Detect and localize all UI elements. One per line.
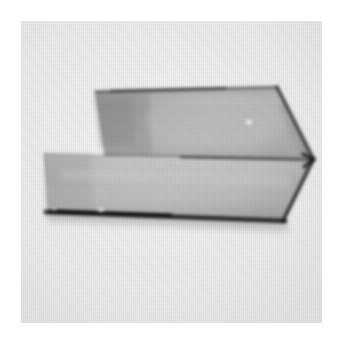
photographic-plate	[21, 21, 322, 323]
image-subject: metal cutting tool bit	[0, 0, 1, 1]
image-metadata: metal cutting tool bit Black and white h…	[0, 0, 1, 1]
tool-bit	[21, 21, 322, 323]
lower-front-face	[44, 153, 308, 220]
upper-ground-face	[95, 87, 312, 160]
figure-root: metal cutting tool bit Black and white h…	[0, 0, 345, 353]
